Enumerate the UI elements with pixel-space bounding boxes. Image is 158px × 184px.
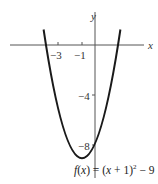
caption-mid: ) = ( bbox=[86, 164, 106, 176]
x-tick-label-neg3: −3 bbox=[50, 49, 62, 61]
caption-end: − 9 bbox=[137, 164, 155, 176]
y-tick-label-neg8: −8 bbox=[78, 140, 90, 152]
x-axis-label: x bbox=[147, 39, 153, 51]
caption-f: f bbox=[74, 164, 77, 176]
x-tick-label-neg1: −1 bbox=[74, 49, 86, 61]
function-label: f(x) = (x + 1)2 − 9 bbox=[74, 163, 155, 176]
y-axis-label: y bbox=[90, 10, 96, 22]
graph-canvas: x y −3 −1 −4 −8 bbox=[0, 0, 158, 184]
y-tick-label-neg4: −4 bbox=[78, 90, 90, 102]
caption-plus: + 1) bbox=[111, 164, 133, 176]
